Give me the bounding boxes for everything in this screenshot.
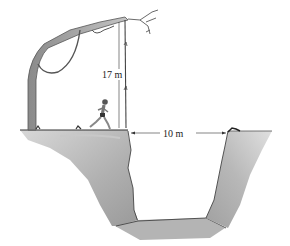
- left-cliff: [20, 130, 138, 226]
- runner-figure: [90, 99, 110, 129]
- vine-length-label: 17 m: [101, 69, 123, 80]
- tree: [28, 10, 158, 130]
- ravine-width-label: 10 m: [162, 128, 184, 139]
- ravine-swing-diagram: 17 m 10 m: [0, 0, 290, 246]
- diagram-drawing: [0, 0, 290, 246]
- right-cliff: [206, 128, 272, 228]
